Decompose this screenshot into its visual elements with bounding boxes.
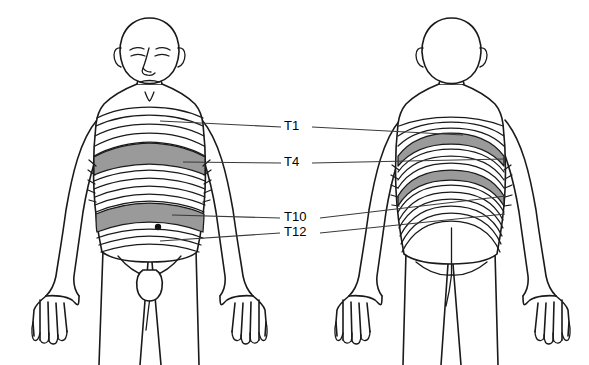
posterior-legs — [403, 252, 498, 365]
anterior-right-hand — [220, 296, 267, 344]
anterior-head — [120, 18, 179, 84]
anterior-body-figure — [32, 18, 267, 365]
label-t10: T10 — [284, 209, 306, 224]
posterior-body-figure — [335, 18, 570, 365]
anterior-left-hand — [32, 296, 79, 344]
posterior-head — [422, 18, 481, 84]
dermatome-labels: T1 T4 T10 T12 — [284, 118, 306, 239]
posterior-left-hand — [335, 296, 382, 344]
label-t1: T1 — [284, 118, 299, 133]
label-t4: T4 — [284, 154, 299, 169]
anterior-torso — [94, 84, 206, 262]
label-t12: T12 — [284, 224, 306, 239]
dermatome-illustration: T1 T4 T10 T12 — [0, 0, 589, 365]
posterior-right-hand — [523, 296, 570, 344]
anterior-groin — [118, 256, 181, 330]
dermatome-diagram: T1 T4 T10 T12 — [0, 0, 589, 365]
